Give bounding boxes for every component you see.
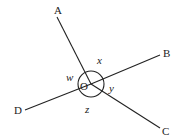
label-d: D [14, 104, 22, 116]
ray-oc [91, 84, 160, 128]
label-c: C [162, 125, 169, 137]
ray-oa [57, 17, 91, 84]
angle-label-x: x [96, 54, 102, 66]
label-b: B [163, 47, 170, 59]
angle-label-y: y [108, 82, 114, 94]
angle-diagram: A B C D O x y z w [0, 0, 176, 140]
label-a: A [54, 4, 62, 16]
angle-label-w: w [66, 71, 74, 83]
label-o: O [80, 80, 88, 92]
diagram-canvas: A B C D O x y z w [0, 0, 176, 140]
angle-label-z: z [84, 103, 90, 115]
